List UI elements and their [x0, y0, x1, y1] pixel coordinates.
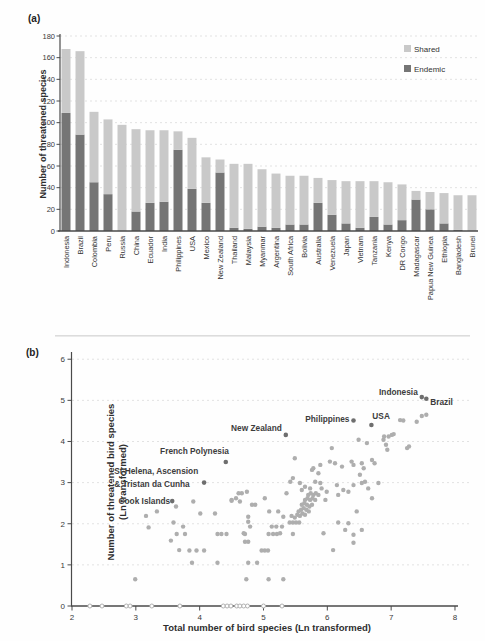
scatter-point	[246, 520, 250, 524]
scatter-point	[351, 483, 355, 487]
scatter-point	[385, 448, 389, 452]
point-label-cook-islands: Cook Islands	[119, 496, 171, 506]
y-tick-label-a: 160	[42, 53, 55, 62]
y-tick-label-b: 1	[61, 561, 66, 570]
scatter-point	[351, 463, 355, 467]
scatter-zero-point	[128, 604, 132, 608]
scatter-point	[234, 496, 238, 500]
scatter-point	[291, 532, 295, 536]
scatter-zero-point	[100, 604, 104, 608]
scatter-point	[240, 491, 244, 495]
scatter-point	[144, 514, 148, 518]
bar-shared-India	[160, 130, 169, 202]
category-label-Mexico: Mexico	[202, 236, 211, 259]
panel-b-point-labels: IndonesiaBrazilUSAPhilippinesNew Zealand…	[114, 387, 453, 506]
bar-endemic-South Africa	[286, 225, 295, 232]
point-label-indonesia: Indonesia	[379, 387, 418, 397]
bar-shared-Venezuela	[328, 180, 337, 215]
category-label-China: China	[132, 235, 141, 255]
scatter-point	[372, 461, 376, 465]
scatter-point	[281, 577, 285, 581]
scatter-point	[321, 531, 325, 535]
bar-shared-USA	[188, 138, 197, 189]
category-label-Bolivia: Bolivia	[300, 235, 309, 258]
figure-svg: (a) Number of threatened species Indones…	[0, 0, 485, 641]
labeled-point-french-polynesia	[224, 460, 229, 465]
y-tick-label-b: 2	[61, 520, 66, 529]
scatter-point	[255, 561, 259, 565]
scatter-point	[330, 446, 334, 450]
scatter-point	[336, 520, 340, 524]
scatter-point	[246, 515, 250, 519]
panel-b-x-axis-title: Total number of bird species (Ln transfo…	[163, 622, 371, 633]
scatter-zero-point	[246, 604, 250, 608]
scatter-point	[246, 561, 250, 565]
scatter-point	[291, 476, 295, 480]
scatter-point	[191, 499, 195, 503]
category-label-Philippines: Philippines	[174, 236, 183, 272]
category-label-Ecuador: Ecuador	[146, 235, 155, 263]
category-label-Thailand: Thailand	[230, 236, 239, 264]
category-label-USA: USA	[188, 236, 197, 251]
scatter-point	[316, 471, 320, 475]
y-tick-label-b: 0	[61, 602, 66, 611]
bar-endemic-Philippines	[174, 150, 183, 231]
y-tick-label-a: 100	[42, 118, 55, 127]
scatter-point	[303, 485, 307, 489]
scatter-point	[325, 490, 329, 494]
scatter-point	[365, 441, 369, 445]
scatter-point	[267, 509, 271, 513]
bar-endemic-Papua New Guinea	[426, 209, 435, 231]
x-tick-label-b: 5	[261, 613, 266, 622]
bar-shared-Ethiopia	[440, 193, 449, 223]
scatter-point	[274, 524, 278, 528]
bar-shared-Malaysia	[244, 164, 253, 229]
y-tick-label-a: 20	[47, 205, 55, 214]
scatter-point	[266, 548, 270, 552]
scatter-point	[415, 420, 419, 424]
x-tick-label-b: 6	[325, 613, 330, 622]
bar-shared-Thailand	[230, 164, 239, 228]
bar-shared-Tanzania	[370, 181, 379, 217]
y-tick-label-a: 0	[51, 227, 55, 236]
scatter-point	[307, 509, 311, 513]
scatter-point	[278, 531, 282, 535]
scatter-point	[401, 418, 405, 422]
scatter-point	[355, 509, 359, 513]
scatter-point	[146, 525, 150, 529]
labeled-point-usa	[369, 423, 374, 428]
y-tick-label-a: 60	[47, 162, 55, 171]
panel-a-bars: IndonesiaBrazilColombiaPeruRussiaChinaEc…	[62, 49, 478, 300]
bar-endemic-Mexico	[202, 203, 211, 231]
scatter-point	[366, 486, 370, 490]
y-tick-label-a: 80	[47, 140, 55, 149]
point-label-french-polynesia: French Polynesia	[160, 446, 229, 456]
category-label-Malaysia: Malaysia	[244, 235, 253, 265]
scatter-point	[407, 444, 411, 448]
scatter-point	[310, 503, 314, 507]
bar-shared-Philippines	[174, 131, 183, 149]
category-label-Ethiopia: Ethiopia	[440, 235, 449, 263]
y-tick-label-b: 4	[61, 437, 66, 446]
scatter-point	[224, 532, 228, 536]
category-label-Myanmar: Myanmar	[258, 235, 267, 266]
bar-shared-Australia	[314, 178, 323, 203]
scatter-point	[323, 498, 327, 502]
bar-shared-New Zealand	[216, 160, 225, 173]
scatter-zero-point	[229, 604, 233, 608]
bar-endemic-Bolivia	[300, 225, 309, 232]
scatter-point	[266, 532, 270, 536]
scatter-point	[238, 499, 242, 503]
category-label-Colombia: Colombia	[90, 235, 99, 267]
x-tick-label-b: 7	[389, 613, 394, 622]
scatter-point	[303, 513, 307, 517]
category-label-Australia: Australia	[314, 235, 323, 265]
scatter-point	[213, 511, 217, 515]
scatter-point	[215, 532, 219, 536]
y-tick-label-b: 5	[61, 396, 66, 405]
category-label-South Africa: South Africa	[286, 235, 295, 276]
bar-shared-Papua New Guinea	[426, 192, 435, 209]
scatter-zero-point	[150, 604, 154, 608]
scatter-point	[281, 515, 285, 519]
labeled-point-philippines	[351, 418, 356, 423]
